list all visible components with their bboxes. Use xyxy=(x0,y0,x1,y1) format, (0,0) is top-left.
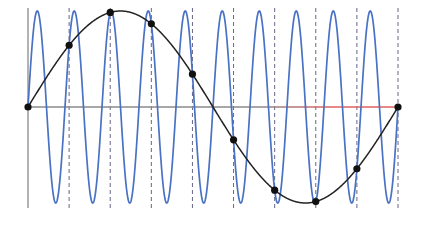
sample-point xyxy=(24,103,31,110)
sample-point xyxy=(230,136,237,143)
sample-point xyxy=(353,165,360,172)
sample-point xyxy=(394,103,401,110)
sample-point xyxy=(107,9,114,16)
aliasing-chart xyxy=(0,0,425,227)
sample-point xyxy=(312,198,319,205)
sample-point xyxy=(271,187,278,194)
sample-point xyxy=(66,42,73,49)
sample-point xyxy=(189,71,196,78)
sample-point xyxy=(148,20,155,27)
